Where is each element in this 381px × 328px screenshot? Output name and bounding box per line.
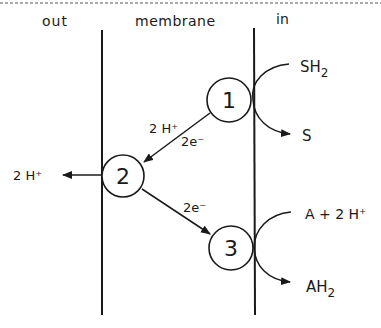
proton-label-1-to-2: 2 H⁺ xyxy=(149,121,178,136)
region-label-membrane: membrane xyxy=(135,13,216,29)
a-uptake-curve xyxy=(254,212,291,248)
sh2-uptake-curve xyxy=(253,64,289,100)
membrane-inner-boundary xyxy=(254,28,255,315)
a-plus-protons-label: A + 2 H⁺ xyxy=(305,206,366,222)
complex-2: 2 xyxy=(102,155,144,197)
electron-label-1-to-2: 2e⁻ xyxy=(181,134,204,149)
complex-1: 1 xyxy=(207,78,251,122)
electron-label-2-to-3: 2e⁻ xyxy=(183,200,206,215)
proton-label-out: 2 H⁺ xyxy=(13,168,42,183)
complex-2-label: 2 xyxy=(116,164,130,189)
s-release-arrow xyxy=(253,100,290,134)
complex-3-label: 3 xyxy=(224,236,238,261)
membrane-electron-transport-diagram: out membrane in 1 2 3 SH2 S 2 H⁺ 2e⁻ 2 H… xyxy=(0,0,381,328)
complex-1-label: 1 xyxy=(222,88,236,113)
sh2-label: SH2 xyxy=(300,58,328,80)
ah2-release-arrow xyxy=(254,248,290,282)
region-label-out: out xyxy=(42,13,68,29)
complex-3: 3 xyxy=(209,226,253,270)
region-label-in: in xyxy=(276,11,289,27)
ah2-label: AH2 xyxy=(306,278,335,300)
s-label: S xyxy=(302,127,312,145)
